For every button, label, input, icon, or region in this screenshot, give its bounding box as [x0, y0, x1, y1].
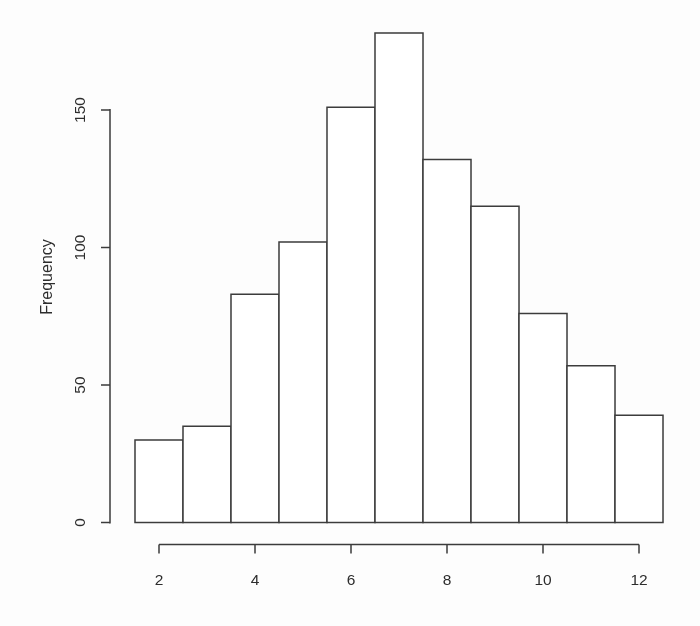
x-tick-label: 6 [347, 571, 356, 588]
histogram-bar [375, 33, 423, 523]
histogram-bar [567, 366, 615, 523]
histogram-bar [615, 415, 663, 522]
x-tick-label: 2 [155, 571, 164, 588]
histogram-bar [231, 294, 279, 522]
histogram-bar [183, 426, 231, 522]
y-tick-label: 0 [71, 518, 88, 527]
histogram-bar [327, 107, 375, 522]
histogram-bar [471, 206, 519, 522]
x-tick-label: 12 [630, 571, 647, 588]
x-tick-label: 8 [443, 571, 452, 588]
y-tick-label: 150 [71, 97, 88, 123]
histogram-bar [279, 242, 327, 523]
x-tick-label: 4 [251, 571, 260, 588]
histogram-bar [135, 440, 183, 523]
x-tick-label: 10 [534, 571, 552, 588]
y-tick-label: 100 [71, 234, 88, 260]
y-tick-label: 50 [71, 376, 88, 394]
y-axis-label: Frequency [38, 239, 55, 315]
histogram-bar [423, 160, 471, 523]
histogram-figure: 05010015024681012Frequency [0, 0, 700, 626]
histogram-plot: 05010015024681012Frequency [0, 0, 700, 626]
histogram-bar [519, 314, 567, 523]
